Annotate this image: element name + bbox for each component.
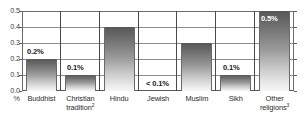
x-label-hindu: Hindu xyxy=(100,94,139,103)
bar-buddhist xyxy=(26,59,57,91)
y-axis: 0.5 0.4 0.3 0.2 0.1 0.0 % xyxy=(0,0,20,127)
y-tick-label-1: 0.4 xyxy=(0,23,20,31)
y-tick-label-2: 0.3 xyxy=(0,39,20,47)
x-label-text: Muslim xyxy=(185,94,208,103)
x-label-muslim: Muslim xyxy=(177,94,216,103)
bar-chart: 0.5 0.4 0.3 0.2 0.1 0.0 % xyxy=(0,0,305,127)
x-label-text: Buddhist xyxy=(27,94,55,103)
tickmark xyxy=(294,91,297,92)
data-label-jewish: < 0.1% xyxy=(146,79,169,88)
x-label-text: Sikh xyxy=(229,94,243,103)
tickmark xyxy=(294,43,297,44)
data-label-sikh: 0.1% xyxy=(223,63,240,72)
footnote-marker: 2 xyxy=(92,102,95,108)
y-tick-label-4: 0.1 xyxy=(0,71,20,79)
tickmark xyxy=(294,11,297,12)
bar-column-muslim[interactable] xyxy=(177,11,216,91)
data-label-muslim: 0.3% xyxy=(183,31,200,40)
bar-muslim xyxy=(181,43,212,91)
x-label-jewish: Jewish xyxy=(139,94,178,103)
tickmark xyxy=(294,75,297,76)
footnote-marker: 3 xyxy=(287,102,290,108)
bar-christian-tradition xyxy=(65,75,96,91)
x-label-text: Hindu xyxy=(110,94,129,103)
x-label-christian-tradition: Christian tradition2 xyxy=(61,94,100,113)
x-label-text: Other religions xyxy=(260,94,287,112)
tickmark xyxy=(294,59,297,60)
y-axis-tickmarks-right xyxy=(294,11,297,91)
bar-hindu xyxy=(104,27,135,91)
bar-column-sikh[interactable] xyxy=(216,11,255,91)
data-label-christian-tradition: 0.1% xyxy=(67,63,84,72)
tickmark xyxy=(19,91,22,92)
tickmark xyxy=(294,27,297,28)
data-label-hindu: 0.4% xyxy=(105,15,122,24)
y-tick-label-0: 0.5 xyxy=(0,7,20,15)
x-label-text: Christian tradition xyxy=(66,94,94,112)
data-label-buddhist: 0.2% xyxy=(27,47,44,56)
y-axis-unit-label: % xyxy=(0,95,20,103)
x-axis-labels: Buddhist Christian tradition2 Hindu Jewi… xyxy=(22,94,294,127)
y-tick-label-3: 0.2 xyxy=(0,55,20,63)
bars-layer: 0.2% 0.1% 0.4% < 0.1% 0.3% 0.1% 0.5% xyxy=(22,11,294,91)
bar-sikh xyxy=(220,75,251,91)
x-label-other-religions: Other religions3 xyxy=(255,94,294,113)
bar-column-christian-tradition[interactable] xyxy=(61,11,100,91)
x-label-text: Jewish xyxy=(147,94,169,103)
bar-other-religions xyxy=(259,11,290,91)
x-label-sikh: Sikh xyxy=(216,94,255,103)
x-label-buddhist: Buddhist xyxy=(22,94,61,103)
bar-column-other-religions[interactable] xyxy=(255,11,294,91)
data-label-other-religions: 0.5% xyxy=(261,14,278,23)
